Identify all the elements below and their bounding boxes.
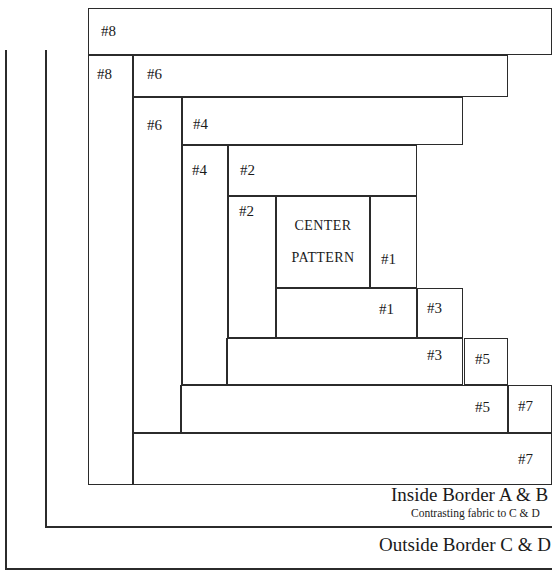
strip-4-top (182, 97, 463, 145)
strip-6-left-label: #6 (147, 118, 162, 133)
strip-8-top-label: #8 (101, 24, 116, 39)
strip-8-top (88, 8, 552, 55)
strip-5-bottom-label: #5 (475, 400, 490, 415)
strip-2-top (228, 145, 417, 196)
strip-1-right (370, 196, 417, 288)
inside-border-note: Contrasting fabric to C & D (411, 507, 540, 519)
strip-7-bottom-label: #7 (518, 452, 533, 467)
strip-6-top (133, 55, 508, 97)
inside-border-left-line (45, 50, 47, 528)
strip-2-left-label: #2 (239, 204, 254, 219)
outside-border-bottom-line (5, 568, 552, 570)
outside-border-caption: Outside Border C & D (379, 534, 551, 556)
strip-4-left-label: #4 (192, 163, 207, 178)
inside-border-bottom-line (45, 526, 552, 528)
quilt-border-diagram: #8 #8 #7 #7 #6 #6 #5 #5 #4 #4 #3 #3 #2 #… (0, 0, 560, 576)
strip-6-left (133, 97, 182, 433)
strip-4-top-label: #4 (193, 117, 208, 132)
strip-7-bottom (133, 433, 552, 485)
strip-5-right-label: #5 (475, 352, 490, 367)
strip-1-bottom-label: #1 (379, 302, 394, 317)
strip-6-top-label: #6 (147, 67, 162, 82)
center-pattern-line-1: CENTER (295, 218, 352, 234)
center-pattern-line-2: PATTERN (292, 250, 355, 266)
strip-1-right-label: #1 (381, 252, 396, 267)
strip-3-right-label: #3 (427, 301, 442, 316)
strip-5-bottom (180, 385, 508, 433)
strip-4-left (182, 145, 228, 385)
strip-2-top-label: #2 (240, 163, 255, 178)
center-pattern-block: CENTER PATTERN (276, 196, 370, 288)
strip-7-right-label: #7 (518, 399, 533, 414)
strip-3-bottom-label: #3 (427, 348, 442, 363)
outside-border-left-line (5, 50, 7, 570)
strip-1-bottom (276, 288, 417, 338)
strip-8-left-label: #8 (97, 67, 112, 82)
inside-border-caption: Inside Border A & B (391, 484, 548, 506)
strip-8-left (88, 55, 133, 485)
